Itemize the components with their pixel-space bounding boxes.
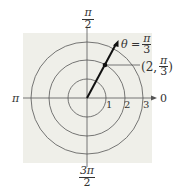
- point-fraction: π 3: [159, 56, 168, 77]
- polar-axis-arrow-icon: [151, 96, 157, 101]
- point-denominator: 3: [159, 66, 168, 77]
- theta-prefix: θ =: [121, 38, 140, 51]
- label-top-denominator: 2: [82, 19, 94, 30]
- label-pi: π: [12, 92, 19, 105]
- label-point-coordinates: (2, π 3 ): [141, 56, 173, 77]
- point-label-open: (2,: [141, 60, 157, 74]
- point-marker: [103, 63, 108, 68]
- label-3pi-over-2: 3π 2: [76, 166, 98, 188]
- circle-label-3: 3: [143, 99, 149, 110]
- label-top-numerator: π: [80, 8, 96, 18]
- theta-fraction: π 3: [142, 34, 151, 55]
- label-zero: 0: [160, 92, 167, 105]
- label-pi-over-2: π 2: [80, 8, 96, 30]
- label-theta-equals: θ = π 3: [121, 34, 151, 55]
- point-label-close: ): [168, 60, 173, 74]
- theta-denominator: 3: [142, 44, 151, 55]
- circle-label-1: 1: [106, 99, 112, 110]
- circle-label-2: 2: [124, 99, 130, 110]
- label-bottom-numerator: 3π: [76, 166, 98, 176]
- label-bottom-denominator: 2: [79, 177, 95, 188]
